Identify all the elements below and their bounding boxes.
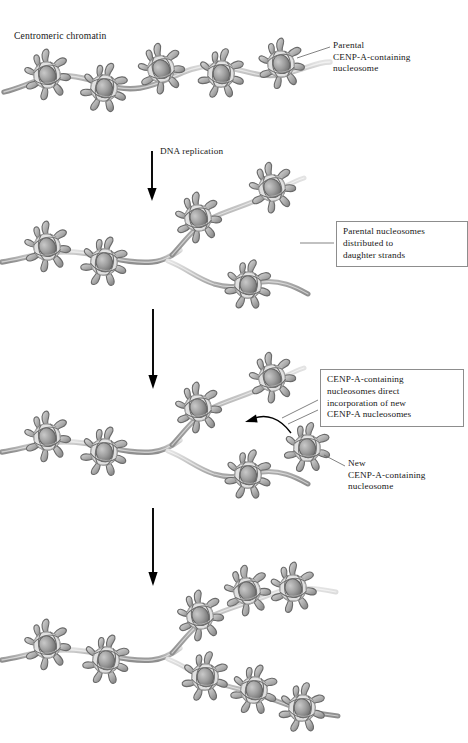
label-dna-replication: DNA replication bbox=[160, 146, 223, 158]
stage-2-after-replication bbox=[2, 158, 308, 312]
nucleosome-icon bbox=[181, 649, 231, 703]
label-parental-nucleosome: Parental CENP-A-containing nucleosome bbox=[333, 40, 411, 75]
label-new-nucleosome: New CENP-A-containing nucleosome bbox=[348, 458, 426, 493]
nucleosome-icon bbox=[22, 408, 74, 463]
nucleosome-icon bbox=[197, 46, 247, 100]
stage-4-restored-chromatin bbox=[2, 561, 338, 735]
down-arrow-icon bbox=[148, 309, 157, 389]
down-arrow-icon bbox=[148, 508, 157, 586]
nucleosome-icon bbox=[244, 158, 300, 217]
nucleosome-icon bbox=[174, 587, 227, 644]
nucleosome-icon bbox=[244, 348, 300, 407]
page-title: Centromeric chromatin bbox=[14, 30, 106, 42]
callout-cenpa-direct: CENP-A-containing nucleosomes direct inc… bbox=[320, 369, 464, 427]
stage-3-new-incorporation bbox=[2, 348, 332, 502]
nucleosome-icon bbox=[278, 680, 328, 734]
leader-line-icon bbox=[297, 47, 330, 58]
nucleosome-icon bbox=[22, 616, 74, 671]
callout-parental-distributed: Parental nucleosomes distributed to daug… bbox=[336, 221, 468, 267]
nucleosome-icon bbox=[256, 36, 306, 90]
leader-line-icon bbox=[324, 455, 345, 466]
stage-1-parental-chromatin bbox=[4, 36, 330, 116]
nucleosome-icon bbox=[172, 379, 225, 436]
figure-canvas: Centromeric chromatin Parental CENP-A-co… bbox=[0, 0, 468, 743]
down-arrow-icon bbox=[147, 151, 156, 201]
nucleosome-icon bbox=[22, 218, 74, 273]
leader-line-icon bbox=[282, 400, 318, 424]
nucleosome-icon bbox=[172, 189, 225, 246]
nucleosome-icon bbox=[22, 46, 74, 101]
free-nucleosome-icon bbox=[283, 421, 331, 474]
